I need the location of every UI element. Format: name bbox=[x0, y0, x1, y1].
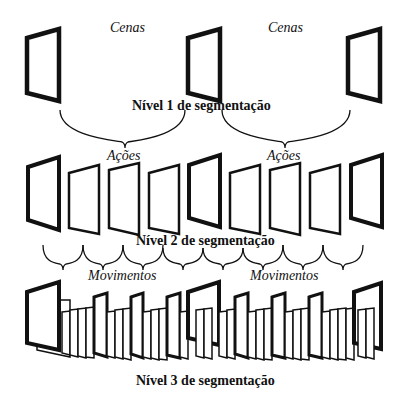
level2-label-actions-2: Ações bbox=[267, 148, 300, 164]
level1-title: Nível 1 de segmentação bbox=[132, 98, 271, 114]
brace bbox=[83, 245, 123, 270]
level3-label-movements-1: Movimentos bbox=[88, 268, 156, 284]
scene-frame bbox=[348, 29, 380, 101]
level1-braces bbox=[60, 110, 350, 148]
action-frame bbox=[230, 165, 260, 234]
keyframe bbox=[27, 282, 59, 350]
keyframe bbox=[131, 293, 143, 358]
level1-frames bbox=[27, 29, 380, 101]
brace bbox=[283, 245, 323, 270]
level2-title: Nível 2 de segmentação bbox=[136, 233, 275, 249]
level2-label-actions-1: Ações bbox=[107, 148, 140, 164]
action-frame bbox=[109, 163, 139, 235]
action-frame bbox=[351, 155, 382, 227]
brace bbox=[323, 245, 363, 270]
scene-frame bbox=[188, 29, 220, 101]
level2-frames bbox=[28, 155, 382, 235]
action-frame bbox=[149, 165, 179, 234]
level3-title: Nível 3 de segmentação bbox=[136, 373, 275, 389]
brace bbox=[222, 110, 350, 148]
action-frame bbox=[69, 165, 99, 234]
action-frame bbox=[189, 155, 220, 227]
brace bbox=[203, 248, 243, 270]
action-frame bbox=[28, 157, 59, 230]
action-frame bbox=[270, 163, 300, 235]
brace bbox=[43, 245, 83, 270]
keyframe bbox=[309, 293, 322, 358]
level1-label-scenes-2: Cenas bbox=[268, 20, 303, 36]
scene-frame bbox=[27, 29, 59, 101]
level1-label-scenes-1: Cenas bbox=[110, 20, 145, 36]
level3-frames bbox=[27, 282, 381, 360]
brace bbox=[163, 248, 203, 270]
keyframe bbox=[235, 293, 248, 358]
segmentation-diagram bbox=[0, 0, 405, 419]
level3-label-movements-2: Movimentos bbox=[250, 268, 318, 284]
brace bbox=[60, 110, 185, 148]
keyframe bbox=[94, 293, 107, 357]
keyframe bbox=[167, 293, 180, 358]
keyframe bbox=[272, 293, 285, 358]
action-frame bbox=[310, 165, 340, 234]
